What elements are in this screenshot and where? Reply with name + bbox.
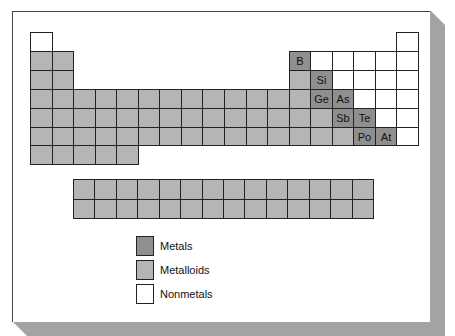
element-cell xyxy=(52,89,74,109)
inner-transition-cell xyxy=(266,199,288,219)
element-cell xyxy=(289,89,311,109)
legend-swatch-metals xyxy=(136,236,154,256)
element-cell xyxy=(95,145,117,165)
element-cell xyxy=(224,89,247,109)
inner-transition-cell xyxy=(244,199,267,219)
legend-item-metals: Metals xyxy=(136,236,192,256)
inner-transition-cell xyxy=(287,179,310,200)
element-cell xyxy=(159,108,182,128)
legend-item-nonmetals: Nonmetals xyxy=(136,284,213,304)
inner-transition-cell xyxy=(330,179,353,200)
element-symbol: Si xyxy=(317,74,327,86)
inner-transition-cell xyxy=(309,199,331,219)
element-cell xyxy=(246,127,268,146)
element-symbol: Sb xyxy=(336,112,349,124)
inner-transition-cell xyxy=(309,179,331,200)
element-cell xyxy=(289,108,311,128)
element-cell-sb: Sb xyxy=(332,108,354,128)
element-cell xyxy=(138,108,160,128)
element-cell xyxy=(159,89,182,109)
element-cell xyxy=(30,127,53,146)
inner-transition-cell xyxy=(180,179,203,200)
element-cell xyxy=(375,70,397,90)
inner-transition-cell xyxy=(223,179,245,200)
element-cell-as: As xyxy=(332,89,354,109)
element-cell xyxy=(181,108,203,128)
element-cell xyxy=(181,127,203,146)
inner-transition-cell xyxy=(180,199,203,219)
inner-transition-cell xyxy=(94,199,117,219)
element-cell xyxy=(202,108,225,128)
element-cell xyxy=(52,51,74,71)
inner-transition-cell xyxy=(244,179,267,200)
element-cell xyxy=(116,127,139,146)
inner-transition-cell xyxy=(159,179,181,200)
element-cell-si: Si xyxy=(310,70,333,90)
element-cell xyxy=(267,89,290,109)
element-cell xyxy=(30,145,53,165)
inner-transition-cell xyxy=(330,199,353,219)
element-symbol: Po xyxy=(358,131,371,143)
element-cell xyxy=(310,51,333,71)
inner-transition-cell xyxy=(159,199,181,219)
inner-transition-cell xyxy=(352,179,374,200)
element-cell xyxy=(375,51,397,71)
element-cell xyxy=(181,89,203,109)
element-cell xyxy=(332,127,354,146)
legend-swatch-nonmetals xyxy=(136,284,154,304)
element-cell xyxy=(73,145,96,165)
element-cell xyxy=(396,89,419,109)
element-cell xyxy=(310,108,333,128)
element-cell xyxy=(116,89,139,109)
element-cell xyxy=(224,108,247,128)
element-cell xyxy=(396,32,419,52)
element-cell xyxy=(73,108,96,128)
element-cell xyxy=(224,127,247,146)
element-cell xyxy=(202,127,225,146)
element-cell xyxy=(52,70,74,90)
element-cell xyxy=(159,127,182,146)
element-cell xyxy=(267,127,290,146)
element-symbol: B xyxy=(296,55,303,67)
element-cell xyxy=(289,127,311,146)
legend-label-metals: Metals xyxy=(160,240,192,252)
element-symbol: As xyxy=(337,93,350,105)
element-cell xyxy=(73,89,96,109)
element-cell xyxy=(332,70,354,90)
element-cell xyxy=(138,89,160,109)
inner-transition-cell xyxy=(116,179,138,200)
element-cell xyxy=(116,145,139,165)
element-cell xyxy=(202,89,225,109)
element-cell-ge: Ge xyxy=(310,89,333,109)
element-cell xyxy=(332,51,354,71)
element-cell xyxy=(52,127,74,146)
legend-item-metalloids: Metalloids xyxy=(136,260,210,280)
element-cell xyxy=(396,108,419,128)
element-cell-po: Po xyxy=(353,127,376,146)
element-cell xyxy=(353,89,376,109)
element-cell xyxy=(375,89,397,109)
legend-label-nonmetals: Nonmetals xyxy=(160,288,213,300)
inner-transition-cell xyxy=(137,199,160,219)
element-cell xyxy=(396,127,419,146)
element-cell-at: At xyxy=(375,127,397,146)
element-cell xyxy=(30,89,53,109)
element-cell xyxy=(289,70,311,90)
inner-transition-cell xyxy=(266,179,288,200)
element-cell xyxy=(116,108,139,128)
inner-transition-cell xyxy=(116,199,138,219)
element-cell xyxy=(73,127,96,146)
element-cell-te: Te xyxy=(353,108,376,128)
element-cell xyxy=(396,70,419,90)
element-cell xyxy=(95,89,117,109)
element-cell xyxy=(310,127,333,146)
element-cell xyxy=(375,108,397,128)
inner-transition-cell xyxy=(73,199,95,219)
element-cell xyxy=(30,51,53,71)
inner-transition-cell xyxy=(202,179,224,200)
element-cell xyxy=(353,51,376,71)
inner-transition-cell xyxy=(94,179,117,200)
element-cell xyxy=(30,108,53,128)
element-symbol: At xyxy=(381,131,391,143)
element-symbol: Ge xyxy=(314,93,329,105)
